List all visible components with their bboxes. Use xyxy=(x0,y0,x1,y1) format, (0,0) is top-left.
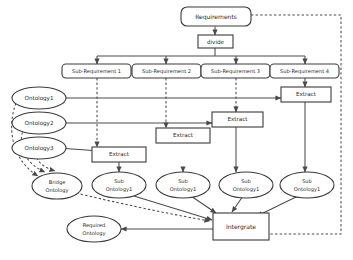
node-sub-ontology-2[interactable]: Sub Ontology1 xyxy=(156,172,210,198)
node-layer: Requirements divide Sub-Requirement 1 Su… xyxy=(12,7,339,242)
node-sub-requirement-2-label: Sub-Requirement 2 xyxy=(142,68,191,75)
node-sub-ontology-1[interactable]: Sub Ontology1 xyxy=(92,172,146,198)
node-ontology-1-label: Ontology1 xyxy=(25,95,54,102)
node-sub-ontology-3-label-line1: Sub xyxy=(241,178,251,184)
node-bridge-ontology-label-line2: Ontology xyxy=(45,187,68,194)
node-extract-1-label: Extract xyxy=(109,151,130,157)
node-required-ontology[interactable]: Required Ontology xyxy=(67,216,121,242)
node-sub-ontology-1-label-line2: Ontology1 xyxy=(106,186,132,193)
node-divide[interactable]: divide xyxy=(198,35,233,48)
node-extract-4-label: Extract xyxy=(296,91,317,97)
node-sub-ontology-4-label-line2: Ontology1 xyxy=(294,186,320,193)
node-ontology-1[interactable]: Ontology1 xyxy=(12,87,66,109)
node-ontology-3[interactable]: Ontology3 xyxy=(12,137,66,159)
node-sub-ontology-1-label-line1: Sub xyxy=(114,178,124,184)
edge-sub-ontology-2-to-intergrate xyxy=(191,196,216,213)
node-intergrate-label: Intergrate xyxy=(226,223,256,231)
node-extract-3-label: Extract xyxy=(227,116,248,122)
node-requirements-label: Requirements xyxy=(195,13,237,21)
node-ontology-2-label: Ontology2 xyxy=(25,120,54,127)
node-divide-label: divide xyxy=(207,39,225,45)
node-requirements[interactable]: Requirements xyxy=(181,7,251,26)
node-bridge-ontology[interactable]: Bridge Ontology xyxy=(32,173,82,199)
node-sub-ontology-3[interactable]: Sub Ontology1 xyxy=(219,172,273,198)
node-sub-requirement-3[interactable]: Sub-Requirement 3 xyxy=(201,64,270,78)
node-sub-requirement-4[interactable]: Sub-Requirement 4 xyxy=(270,64,339,78)
node-sub-requirement-1-label: Sub-Requirement 1 xyxy=(72,68,121,75)
node-sub-requirement-1[interactable]: Sub-Requirement 1 xyxy=(62,64,131,78)
node-extract-1[interactable]: Extract xyxy=(92,147,146,162)
node-required-ontology-label-line2: Ontology xyxy=(82,230,105,237)
node-sub-ontology-4-label-line1: Sub xyxy=(302,178,312,184)
node-extract-2-label: Extract xyxy=(173,132,194,138)
node-ontology-3-label: Ontology3 xyxy=(25,145,54,152)
ontology-integration-diagram: Requirements divide Sub-Requirement 1 Su… xyxy=(0,0,353,260)
node-extract-3[interactable]: Extract xyxy=(212,112,263,127)
node-intergrate[interactable]: Intergrate xyxy=(213,213,269,240)
edge-sub-ontology-3-to-intergrate xyxy=(232,196,243,212)
node-ontology-2[interactable]: Ontology2 xyxy=(12,112,66,134)
node-sub-ontology-4[interactable]: Sub Ontology1 xyxy=(280,172,334,198)
node-extract-4[interactable]: Extract xyxy=(281,87,331,102)
node-bridge-ontology-label-line1: Bridge xyxy=(49,179,66,186)
node-sub-requirement-3-label: Sub-Requirement 3 xyxy=(211,68,260,75)
node-sub-requirement-2[interactable]: Sub-Requirement 2 xyxy=(132,64,201,78)
edge-sub-ontology-1-to-intergrate xyxy=(134,196,212,220)
node-extract-2[interactable]: Extract xyxy=(156,128,210,143)
node-sub-ontology-3-label-line2: Ontology1 xyxy=(233,186,259,193)
node-sub-ontology-2-label-line1: Sub xyxy=(178,178,188,184)
node-sub-ontology-2-label-line2: Ontology1 xyxy=(170,186,196,193)
node-sub-requirement-4-label: Sub-Requirement 4 xyxy=(280,68,329,75)
diagram-canvas: Requirements divide Sub-Requirement 1 Su… xyxy=(0,0,353,260)
node-required-ontology-label-line1: Required xyxy=(83,222,106,229)
